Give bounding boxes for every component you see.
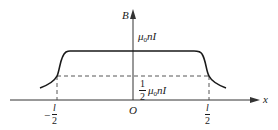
origin-label: O xyxy=(129,105,137,116)
y-axis-label: B xyxy=(122,10,129,21)
y-axis-arrow-icon xyxy=(130,9,136,19)
plateau-value-label: μ0nI xyxy=(138,31,156,44)
half-fraction: 1 2 xyxy=(139,79,146,102)
left-tick-label: l 2 xyxy=(52,103,57,126)
left-tick-minus: − xyxy=(44,110,50,121)
half-value-label: μ0nI xyxy=(148,85,166,98)
x-axis-arrow-icon xyxy=(250,97,260,103)
solenoid-field-diagram: B μ0nI 1 2 μ0nI O − l 2 l 2 x xyxy=(0,0,278,130)
right-tick-label: l 2 xyxy=(205,103,210,126)
diagram-graphics xyxy=(0,0,278,130)
x-axis-label: x xyxy=(263,94,268,105)
